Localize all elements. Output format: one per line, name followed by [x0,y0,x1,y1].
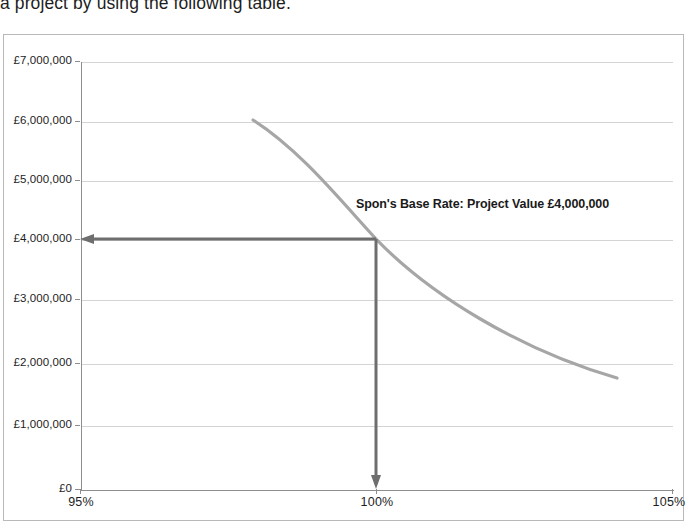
x-axis-line [81,490,674,491]
y-tick-7000000 [75,61,80,62]
chart-annotation-spons-base-rate: Spon's Base Rate: Project Value £4,000,0… [356,197,609,211]
gridline-7000000 [81,62,673,63]
x-axis-label-100: 100% [352,495,402,509]
y-axis-label-5000000: £5,000,000 [0,173,72,185]
y-axis-label-3000000: £3,000,000 [0,292,72,304]
y-axis-line [81,62,82,491]
plot-area [81,62,673,490]
gridline-1000000 [81,426,673,427]
y-tick-6000000 [75,121,80,122]
chart-container [3,34,684,521]
x-tick-105 [672,489,673,494]
y-axis-label-2000000: £2,000,000 [0,356,72,368]
y-tick-1000000 [75,425,80,426]
y-axis-label-1000000: £1,000,000 [0,418,72,430]
gridline-3000000 [81,300,673,301]
x-tick-100 [376,489,377,494]
y-axis-label-0: £0 [0,482,72,494]
x-axis-label-105: 105% [644,495,694,509]
gridline-6000000 [81,122,673,123]
y-axis-label-4000000: £4,000,000 [0,232,72,244]
y-tick-3000000 [75,299,80,300]
y-tick-5000000 [75,180,80,181]
y-axis-label-6000000: £6,000,000 [0,114,72,126]
gridline-5000000 [81,181,673,182]
document-text-line: a project by using the following table. [0,0,695,19]
x-tick-95 [80,489,81,494]
y-tick-2000000 [75,363,80,364]
gridline-2000000 [81,364,673,365]
x-axis-label-95: 95% [60,495,102,509]
gridline-4000000 [81,240,673,241]
y-tick-4000000 [75,239,80,240]
y-axis-label-7000000: £7,000,000 [0,54,72,66]
